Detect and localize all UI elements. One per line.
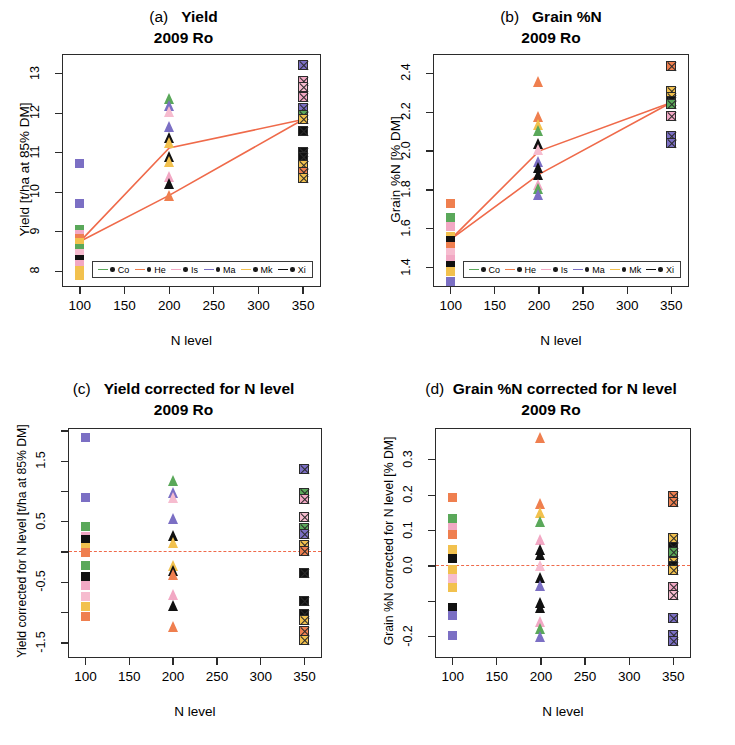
panel-a-title-text: Yield: [181, 8, 217, 25]
plot-frame: [433, 54, 689, 287]
panel-c-subtitle: 2009 Ro: [0, 399, 367, 420]
legend-dot-icon: [553, 267, 558, 272]
legend-line-icon: [505, 269, 515, 270]
legend-dot-icon: [147, 267, 152, 272]
y-axis-tick-label: 12: [28, 95, 42, 129]
data-point-square: [448, 554, 457, 563]
legend-line-icon: [610, 269, 620, 270]
data-point-triangle: [533, 189, 543, 200]
x-axis-tick: [258, 287, 259, 294]
data-point-square: [448, 611, 457, 620]
legend-label: He: [153, 265, 167, 275]
data-point-crossed-square: [299, 464, 309, 474]
y-axis-tick: [426, 228, 433, 229]
data-point-square: [448, 631, 457, 640]
y-axis-tick-label: 1.4: [399, 250, 413, 284]
y-axis-tick: [428, 459, 435, 460]
y-axis-tick: [426, 267, 433, 268]
x-axis-tick: [671, 287, 672, 294]
legend-item-co[interactable]: Co: [98, 265, 130, 275]
data-point-square: [75, 271, 84, 280]
panel-d-ylabel: Grain %N corrected for N level [% DM]: [382, 351, 396, 731]
data-point-triangle: [168, 492, 178, 503]
legend-label: Xi: [665, 265, 675, 275]
legend-line-icon: [541, 269, 551, 270]
data-point-triangle: [164, 178, 174, 189]
y-axis-tick: [55, 113, 62, 114]
data-point-square: [448, 574, 457, 583]
x-axis-tick: [85, 658, 86, 665]
legend-dot-icon: [585, 267, 590, 272]
panel-b-subtitle: 2009 Ro: [367, 27, 735, 48]
panel-a-tag: (a): [149, 8, 168, 25]
data-point-square: [81, 548, 90, 557]
y-axis-tick: [61, 642, 68, 643]
data-point-triangle: [164, 190, 174, 201]
y-axis-tick-label: 0.3: [401, 442, 415, 476]
legend-dot-icon: [290, 267, 295, 272]
data-point-crossed-square: [299, 615, 309, 625]
x-axis-tick: [79, 287, 80, 294]
legend-line-icon: [573, 269, 583, 270]
legend-item-mk[interactable]: Mk: [241, 265, 274, 275]
y-axis-tick: [55, 152, 62, 153]
legend-item-co[interactable]: Co: [469, 265, 501, 275]
data-point-square: [81, 572, 90, 581]
legend-item-he[interactable]: He: [505, 265, 537, 275]
legend-item-is[interactable]: Is: [541, 265, 569, 275]
x-axis-tick: [494, 287, 495, 294]
x-axis-tick: [302, 287, 303, 294]
y-axis-tick: [426, 73, 433, 74]
data-point-triangle: [164, 106, 174, 117]
x-axis-tick-label: 350: [274, 669, 334, 684]
panel-c-yield-corrected: (c) Yield corrected for N level 2009 Ro …: [0, 372, 367, 745]
data-point-crossed-square: [299, 546, 309, 556]
panel-a-subtitle: 2009 Ro: [0, 27, 367, 48]
legend-item-ma[interactable]: Ma: [204, 265, 237, 275]
data-point-crossed-square: [299, 512, 309, 522]
panel-b-tag: (b): [500, 8, 519, 25]
x-axis-tick: [584, 658, 585, 665]
zero-reference-line: [69, 551, 321, 552]
y-axis-tick: [55, 231, 62, 232]
y-axis-tick: [428, 636, 435, 637]
data-point-triangle: [168, 513, 178, 524]
x-axis-tick: [496, 658, 497, 665]
legend-line-icon: [204, 269, 214, 270]
data-point-triangle: [164, 121, 174, 132]
x-axis-tick: [627, 287, 628, 294]
data-point-square: [81, 602, 90, 611]
panel-d-title: (d) Grain %N corrected for N level 2009 …: [367, 378, 735, 420]
x-axis-tick: [213, 287, 214, 294]
legend-item-is[interactable]: Is: [171, 265, 199, 275]
data-point-crossed-square: [668, 565, 678, 575]
legend-item-mk[interactable]: Mk: [610, 265, 643, 275]
panel-c-xlabel: N level: [68, 704, 322, 719]
panel-d-subtitle: 2009 Ro: [367, 399, 735, 420]
data-point-square: [448, 565, 457, 574]
data-point-crossed-square: [668, 497, 678, 507]
data-point-square: [81, 561, 90, 570]
data-point-crossed-square: [666, 138, 676, 148]
legend-item-xi[interactable]: Xi: [278, 265, 307, 275]
legend-line-icon: [98, 269, 108, 270]
plot-frame: [62, 54, 321, 287]
data-point-crossed-square: [668, 613, 678, 623]
panel-c-title: (c) Yield corrected for N level 2009 Ro: [0, 378, 367, 420]
legend-dot-icon: [253, 267, 258, 272]
y-axis-tick: [428, 495, 435, 496]
y-axis-tick-label: 1.5: [34, 443, 48, 477]
y-axis-tick: [61, 461, 68, 462]
data-point-square: [448, 545, 457, 554]
legend-item-ma[interactable]: Ma: [573, 265, 606, 275]
legend-item-xi[interactable]: Xi: [646, 265, 675, 275]
data-point-triangle: [164, 137, 174, 148]
panel-c-tag: (c): [73, 380, 91, 397]
data-point-crossed-square: [299, 635, 309, 645]
plot-frame: [68, 428, 322, 658]
data-point-square: [75, 199, 84, 208]
data-point-square: [81, 581, 90, 590]
y-axis-tick-label: -0.5: [34, 564, 48, 598]
legend-item-he[interactable]: He: [135, 265, 167, 275]
data-point-triangle: [533, 125, 543, 136]
